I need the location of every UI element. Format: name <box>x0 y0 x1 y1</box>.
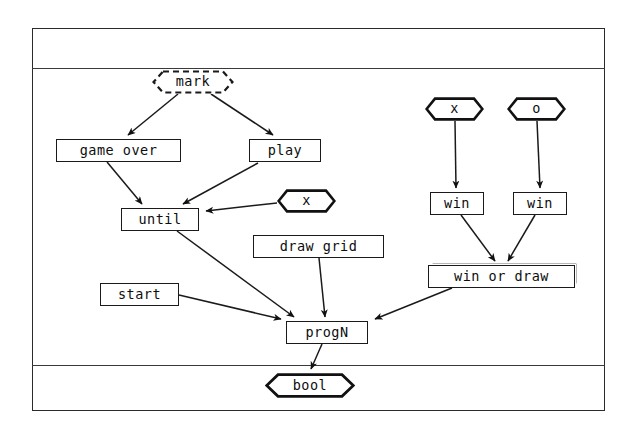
node-x-win[interactable]: x <box>425 97 484 121</box>
edge-o-to-win-right <box>537 121 540 188</box>
node-label: bool <box>293 379 328 393</box>
node-bool[interactable]: bool <box>265 373 355 398</box>
node-label: o <box>532 102 541 116</box>
edge-x-to-until <box>206 203 277 211</box>
node-draw-grid[interactable]: draw grid <box>253 235 384 258</box>
node-o-win[interactable]: o <box>507 97 566 121</box>
edge-win-or-draw-to-progN <box>375 288 452 319</box>
node-until[interactable]: until <box>121 208 199 231</box>
node-label: x <box>450 102 459 116</box>
edge-game-over-to-until <box>107 162 142 204</box>
node-x-until[interactable]: x <box>277 189 336 213</box>
edge-start-to-progN <box>179 295 281 319</box>
node-game-over[interactable]: game over <box>56 139 181 162</box>
node-win-right[interactable]: win <box>513 192 567 215</box>
node-label: mark <box>176 75 211 89</box>
node-win-or-draw[interactable]: win or draw <box>428 265 575 288</box>
edge-win-left-to-win-or-draw <box>461 215 495 261</box>
node-progN[interactable]: progN <box>286 321 368 344</box>
diagram-canvas: mark game over play x until draw grid st… <box>0 0 636 433</box>
node-label: win <box>527 197 553 211</box>
node-label: game over <box>80 144 158 158</box>
node-label: draw grid <box>280 240 358 254</box>
edge-mark-to-play <box>211 94 273 135</box>
edge-play-to-until <box>183 163 258 204</box>
node-win-left[interactable]: win <box>430 192 484 215</box>
node-play[interactable]: play <box>249 139 321 162</box>
node-label: until <box>138 213 181 227</box>
node-label: x <box>302 194 311 208</box>
node-start[interactable]: start <box>100 283 179 306</box>
edge-x-to-win-left <box>455 121 456 188</box>
node-label: progN <box>305 326 348 340</box>
edge-draw-grid-to-progN <box>319 258 325 317</box>
edge-progN-to-bool <box>311 344 322 369</box>
edge-win-right-to-win-or-draw <box>508 215 535 261</box>
node-label: play <box>268 144 303 158</box>
edge-mark-to-game-over <box>128 94 178 135</box>
node-label: win or draw <box>454 270 549 284</box>
node-mark[interactable]: mark <box>152 70 234 94</box>
edge-layer <box>0 0 636 433</box>
node-label: start <box>118 288 161 302</box>
node-label: win <box>444 197 470 211</box>
